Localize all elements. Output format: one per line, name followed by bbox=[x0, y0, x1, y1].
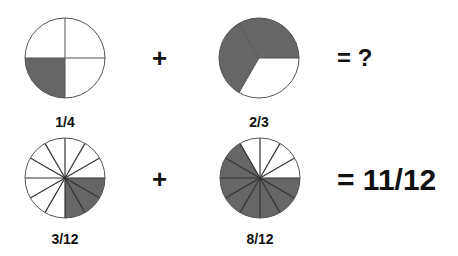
result-question: = ? bbox=[337, 44, 372, 72]
result-answer: = 11/12 bbox=[337, 163, 436, 197]
fraction-label-2-3: 2/3 bbox=[229, 114, 289, 130]
fraction-label-8-12: 8/12 bbox=[230, 231, 290, 247]
plus-sign-row2: + bbox=[152, 166, 167, 192]
fraction-label-1-4: 1/4 bbox=[35, 114, 95, 130]
fraction-label-3-12: 3/12 bbox=[35, 231, 95, 247]
plus-sign-row1: + bbox=[152, 45, 167, 71]
